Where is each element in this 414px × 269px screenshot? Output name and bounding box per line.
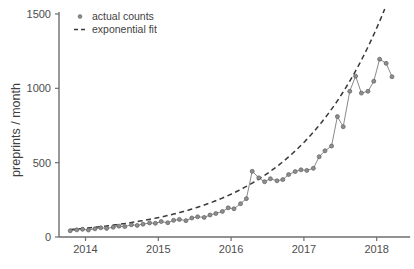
x-tick-label: 2014 [73,243,97,255]
data-point-marker [111,225,115,229]
data-point-marker [172,218,176,222]
y-tick-label: 1500 [27,8,51,20]
data-point-marker [93,227,97,231]
data-point-marker [311,166,315,170]
data-point-marker [196,215,200,219]
data-point-marker [359,91,363,95]
data-point-marker [81,227,85,231]
data-point-marker [123,225,127,229]
data-point-marker [317,155,321,159]
x-tick-label: 2017 [292,243,316,255]
data-point-marker [141,222,145,226]
data-point-marker [129,223,133,227]
data-point-marker [148,221,152,225]
data-point-marker [390,75,394,79]
data-point-marker [105,226,109,230]
data-point-marker [226,206,230,210]
data-point-marker [257,176,261,180]
data-point-marker [305,168,309,172]
data-point-marker [335,115,339,119]
data-point-marker [208,213,212,217]
data-point-marker [117,224,121,228]
legend-label: exponential fit [92,23,157,35]
data-point-marker [378,57,382,61]
data-point-marker [75,228,79,232]
actual-counts-line [70,59,392,231]
data-point-marker [68,229,72,233]
data-point-marker [330,144,334,148]
y-tick-label: 500 [33,157,51,169]
data-point-marker [384,61,388,65]
data-point-marker [268,177,272,181]
data-point-marker [232,207,236,211]
data-point-marker [99,226,103,230]
series-actual-counts-markers [68,57,394,233]
x-tick-label: 2016 [219,243,243,255]
legend-marker-dot [78,15,82,19]
data-point-marker [354,74,358,78]
data-point-marker [275,179,279,183]
y-tick-label: 1000 [27,82,51,94]
data-point-marker [86,228,90,232]
x-tick-label: 2018 [364,243,388,255]
data-point-marker [366,89,370,93]
data-point-marker [323,149,327,153]
data-point-marker [153,221,157,225]
data-point-marker [299,168,303,172]
y-tick-label: 0 [45,231,51,243]
data-point-marker [250,169,254,173]
data-point-marker [287,173,291,177]
series-exponential-fit [70,9,385,230]
data-point-marker [166,221,170,225]
data-point-marker [220,209,224,213]
data-point-marker [244,197,248,201]
data-point-marker [190,216,194,220]
chart-figure: 050010001500 20142015201620172018 actual… [0,0,414,269]
data-point-marker [281,178,285,182]
legend-label: actual counts [92,10,154,22]
y-axis: 050010001500 [27,8,59,243]
series-actual-counts-line [70,59,392,231]
data-point-marker [184,219,188,223]
data-point-marker [135,223,139,227]
chart-legend: actual countsexponential fit [74,10,157,35]
data-point-marker [202,215,206,219]
data-point-marker [239,202,243,206]
data-point-marker [293,170,297,174]
chart-canvas: 050010001500 20142015201620172018 actual… [0,0,414,269]
x-tick-label: 2015 [146,243,170,255]
y-axis-title: preprints / month [9,83,23,177]
data-point-marker [263,180,267,184]
data-point-marker [177,217,181,221]
data-point-marker [348,89,352,93]
data-point-marker [341,125,345,129]
data-point-marker [214,212,218,216]
data-point-marker [159,220,163,224]
exponential-fit-line [70,9,385,230]
data-point-marker [372,79,376,83]
x-axis: 20142015201620172018 [59,237,410,255]
